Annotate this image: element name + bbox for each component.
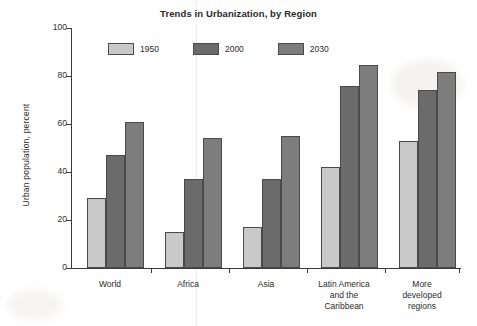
bar [281, 136, 300, 268]
y-tick-label: 80 [58, 70, 67, 80]
chart-figure: Trends in Urbanization, by Region Urban … [0, 0, 477, 326]
bar [203, 138, 222, 268]
x-axis-line [71, 268, 461, 269]
x-tick-mark [385, 268, 386, 273]
bar [399, 141, 418, 268]
x-axis-label-line: More [375, 279, 469, 290]
y-tick-label: 0 [62, 262, 67, 272]
bar [125, 122, 144, 268]
x-tick-mark [459, 268, 460, 273]
scan-artifact [8, 290, 62, 320]
x-tick-mark [151, 268, 152, 273]
y-tick-label: 100 [53, 22, 67, 32]
bar [184, 179, 203, 268]
x-tick-mark [229, 268, 230, 273]
bar [243, 227, 262, 268]
bar [418, 90, 437, 268]
bar [340, 86, 359, 268]
y-tick-label: 40 [58, 166, 67, 176]
bar [359, 65, 378, 268]
y-axis-title: Urban population, percent [21, 85, 31, 225]
plot-area: 020406080100 WorldAfricaAsiaLatin Americ… [71, 28, 461, 268]
y-tick-label: 20 [58, 214, 67, 224]
x-axis-label-line: regions [375, 301, 469, 312]
x-tick-mark [307, 268, 308, 273]
bar [165, 232, 184, 268]
x-axis-category-label: Moredevelopedregions [375, 279, 469, 312]
bar [321, 167, 340, 268]
bar [437, 72, 456, 268]
bar [87, 198, 106, 268]
y-tick-label: 60 [58, 118, 67, 128]
chart-title: Trends in Urbanization, by Region [0, 8, 477, 19]
x-axis-label-line: developed [375, 290, 469, 301]
y-axis-line [71, 28, 72, 269]
bar [106, 155, 125, 268]
bar [262, 179, 281, 268]
